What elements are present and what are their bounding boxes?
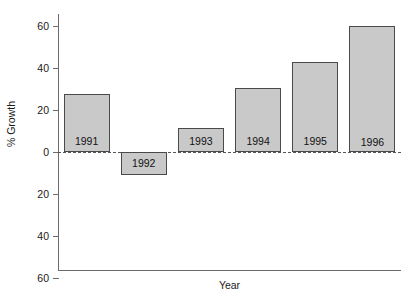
bar-label: 1996 <box>350 137 394 148</box>
bar-1992[interactable]: 1992 <box>121 152 167 175</box>
y-axis-tick-label: 60 <box>5 21 49 32</box>
bar-label: 1992 <box>122 158 166 169</box>
bar-chart: 6040200204060 199119921993199419951996 %… <box>0 0 406 303</box>
plot-area: 199119921993199419951996 <box>58 14 401 271</box>
bar-1994[interactable]: 1994 <box>235 88 281 152</box>
bar-1995[interactable]: 1995 <box>292 62 338 152</box>
y-axis-tick-label: 60 <box>5 273 49 284</box>
bar-1991[interactable]: 1991 <box>64 94 110 152</box>
x-axis-title: Year <box>58 279 401 291</box>
bar-label: 1991 <box>65 136 109 147</box>
y-axis-tick-label: 20 <box>5 189 49 200</box>
bar-label: 1995 <box>293 136 337 147</box>
y-axis-tick-label: 40 <box>5 63 49 74</box>
bar-1996[interactable]: 1996 <box>349 26 395 152</box>
y-axis-title: % Growth <box>5 89 17 159</box>
y-axis-tick-label: 40 <box>5 231 49 242</box>
bar-label: 1994 <box>236 136 280 147</box>
bar-label: 1993 <box>179 136 223 147</box>
bar-1993[interactable]: 1993 <box>178 128 224 152</box>
